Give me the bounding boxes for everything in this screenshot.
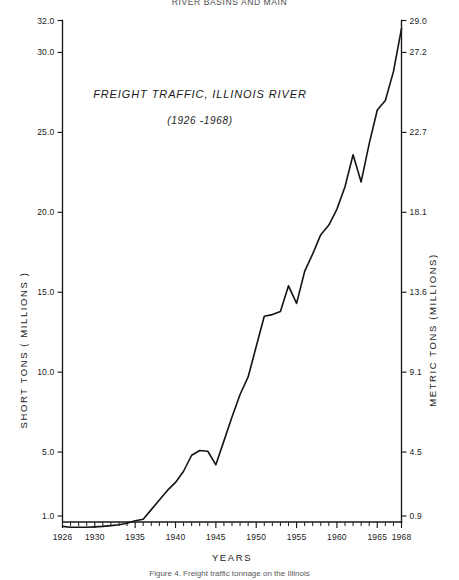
x-tick-label: 1930 — [85, 532, 105, 542]
y-tick-label-right: 0.9 — [410, 511, 422, 521]
x-tick-label: 1935 — [125, 532, 145, 542]
y-tick-label-left: 10.0 — [37, 367, 54, 377]
x-tick-label: 1968 — [392, 532, 412, 542]
y-tick-label-right: 29.0 — [410, 16, 427, 26]
y-tick-label-right: 18.1 — [410, 207, 427, 217]
y-tick-label-left: 30.0 — [37, 47, 54, 57]
x-tick-label: 1960 — [327, 532, 347, 542]
x-tick-label: 1926 — [53, 532, 73, 542]
y-tick-label-right: 27.2 — [410, 47, 427, 57]
x-tick-label: 1950 — [246, 532, 266, 542]
y-tick-label-left: 5.0 — [42, 447, 54, 457]
y-tick-label-right: 22.7 — [410, 127, 427, 137]
chart-title: FREIGHT TRAFFIC, ILLINOIS RIVER — [93, 88, 307, 100]
x-tick-label: 1940 — [166, 532, 186, 542]
x-axis-title: YEARS — [212, 552, 252, 563]
freight-tonnage-line — [63, 28, 402, 527]
figure-caption-strip: Figure 4. Freight traffic tonnage on the… — [0, 568, 459, 580]
x-tick-label: 1965 — [367, 532, 387, 542]
y2-axis-title: METRIC TONS (MILLIONS) — [427, 253, 438, 407]
y-tick-label-left: 15.0 — [37, 287, 54, 297]
chart-subtitle: (1926 -1968) — [167, 115, 233, 126]
x-tick-label: 1955 — [287, 532, 307, 542]
y-tick-label-right: 9.1 — [410, 367, 422, 377]
y-tick-label-left: 25.0 — [37, 127, 54, 137]
y-tick-label-left: 1.0 — [42, 511, 54, 521]
y-tick-label-right: 4.5 — [410, 447, 422, 457]
figure-caption-text: Figure 4. Freight traffic tonnage on the… — [0, 568, 459, 580]
y-tick-label-right: 13.6 — [410, 287, 427, 297]
x-tick-label: 1945 — [206, 532, 226, 542]
y-tick-label-left: 20.0 — [37, 207, 54, 217]
y-tick-label-left: 32.0 — [37, 16, 54, 26]
y-axis-title: SHORT TONS ( MILLIONS ) — [18, 272, 29, 429]
